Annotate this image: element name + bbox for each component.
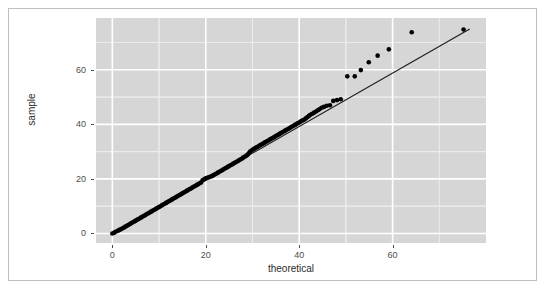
y-tick-label: 60	[50, 65, 86, 74]
y-tick-label: 20	[50, 174, 86, 183]
x-tick-label: 0	[110, 251, 115, 260]
y-tick-mark	[91, 179, 94, 180]
qq-plot-figure: 0204060 0204060 theoretical sample	[0, 0, 547, 291]
y-tick-mark	[91, 124, 94, 125]
data-points	[110, 27, 466, 236]
x-axis-title: theoretical	[96, 263, 486, 274]
x-tick-label: 60	[388, 251, 398, 260]
plot-panel	[96, 18, 486, 243]
x-tick-mark	[112, 245, 113, 248]
x-tick-label: 20	[201, 251, 211, 260]
x-tick-mark	[393, 245, 394, 248]
y-tick-label: 0	[50, 229, 86, 238]
x-tick-mark	[206, 245, 207, 248]
y-tick-mark	[91, 70, 94, 71]
plot-canvas	[96, 18, 486, 243]
y-tick-label: 40	[50, 120, 86, 129]
x-tick-mark	[299, 245, 300, 248]
y-tick-mark	[91, 233, 94, 234]
y-axis-title: sample	[26, 50, 37, 170]
x-tick-label: 40	[294, 251, 304, 260]
